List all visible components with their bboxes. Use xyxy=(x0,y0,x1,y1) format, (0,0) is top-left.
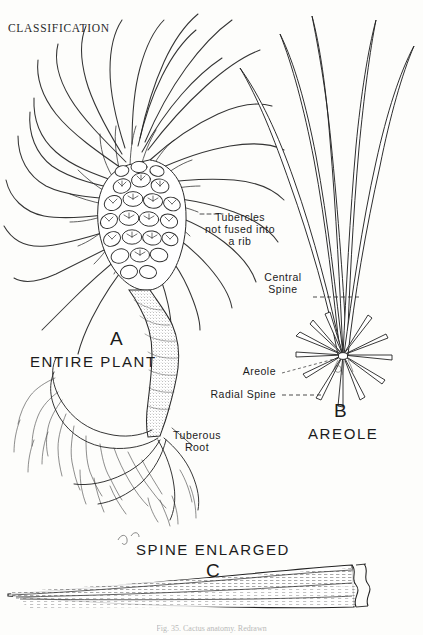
panel-title-c: SPINE ENLARGED xyxy=(136,542,290,559)
annotation-areole-line-1: Areole xyxy=(243,366,276,378)
panel-letter-b: B xyxy=(334,400,347,421)
annotation-radial-spine: Radial Spine xyxy=(210,389,276,401)
panel-title-b: AREOLE xyxy=(308,426,378,443)
figure-page: CLASSIFICATION Tubercles not fused into … xyxy=(0,0,423,635)
annotation-tubercles-line-2: not fused into xyxy=(205,224,275,236)
annotation-central-spine-line-1: Central xyxy=(264,272,301,284)
figure-caption: Fig. 35. Cactus anatomy. Redrawn xyxy=(156,624,266,635)
panel-letter-c: C xyxy=(206,560,220,581)
annotation-areole: Areole xyxy=(243,366,276,378)
panel-title-a: ENTIRE PLANT xyxy=(30,354,157,371)
running-head: CLASSIFICATION xyxy=(8,22,110,34)
annotation-tuberous-root: Tuberous Root xyxy=(173,430,221,454)
annotation-tubercles: Tubercles not fused into a rib xyxy=(205,212,275,247)
cactus-plate-illustration xyxy=(0,0,423,635)
annotation-tuberous-root-line-2: Root xyxy=(173,442,221,454)
annotation-central-spine-line-2: Spine xyxy=(264,284,301,296)
annotation-tubercles-line-1: Tubercles xyxy=(205,212,275,224)
annotation-radial-spine-line-1: Radial Spine xyxy=(210,389,276,401)
annotation-tuberous-root-line-1: Tuberous xyxy=(173,430,221,442)
areole-center xyxy=(338,353,347,360)
panel-letter-a: A xyxy=(110,328,123,349)
annotation-tubercles-line-3: a rib xyxy=(205,236,275,248)
annotation-central-spine: Central Spine xyxy=(264,272,301,296)
